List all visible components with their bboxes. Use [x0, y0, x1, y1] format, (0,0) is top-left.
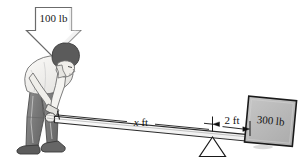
dimension-x-label: x ft	[133, 116, 148, 128]
dimension-2ft-label: 2 ft	[225, 114, 240, 126]
lever-diagram-svg: 100 lb	[0, 0, 299, 165]
load-block-300lb: 300 lb	[245, 96, 297, 146]
load-block-shadow	[253, 145, 273, 149]
figure-canvas: 100 lb	[0, 0, 299, 165]
force-arrow-label: 100 lb	[40, 12, 68, 24]
dimension-x-unit: ft	[141, 116, 148, 128]
person-mouth	[69, 74, 73, 75]
